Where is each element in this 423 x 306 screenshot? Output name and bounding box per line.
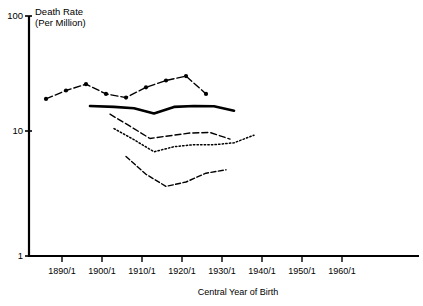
- x-tick-label-1940: 1940/1: [248, 266, 276, 276]
- series-line-series-4-dotted: [114, 129, 254, 152]
- y-axis-title-line1: Death Rate: [35, 6, 83, 17]
- y-tick-label-10: 10: [12, 125, 23, 136]
- x-tick-label-1950: 1950/1: [288, 266, 316, 276]
- x-tick-label-1960: 1960/1: [328, 266, 356, 276]
- x-tick-label-1930: 1930/1: [208, 266, 236, 276]
- series-layer: [44, 74, 254, 186]
- data-point-marker: [44, 97, 48, 101]
- y-tick-label-1: 1: [18, 250, 23, 261]
- data-point-marker: [164, 78, 168, 82]
- x-axis-title: Central Year of Birth: [198, 287, 279, 297]
- series-line-series-1-marker-dash: [46, 76, 206, 99]
- x-tick-label-1890: 1890/1: [48, 266, 76, 276]
- line-chart: 100 10 1 Death Rate (Per Million) 1890/1…: [0, 0, 423, 306]
- data-point-marker: [124, 96, 128, 100]
- data-point-marker: [84, 82, 88, 86]
- data-point-marker: [204, 92, 208, 96]
- series-line-series-5-lower-dashed: [126, 157, 226, 187]
- data-point-marker: [144, 85, 148, 89]
- series-line-series-2-solid-bold: [90, 106, 234, 114]
- x-tick-label-1900: 1900/1: [88, 266, 116, 276]
- data-point-marker: [64, 88, 68, 92]
- x-tick-label-1920: 1920/1: [168, 266, 196, 276]
- y-tick-label-100: 100: [7, 10, 23, 21]
- data-point-marker: [184, 74, 188, 78]
- x-tick-label-1910: 1910/1: [128, 266, 156, 276]
- series-line-series-3-dashed: [110, 114, 230, 139]
- chart-container: 100 10 1 Death Rate (Per Million) 1890/1…: [0, 0, 423, 306]
- data-point-marker: [104, 92, 108, 96]
- y-axis-title-line2: (Per Million): [35, 17, 86, 28]
- chart-axes: [29, 16, 419, 256]
